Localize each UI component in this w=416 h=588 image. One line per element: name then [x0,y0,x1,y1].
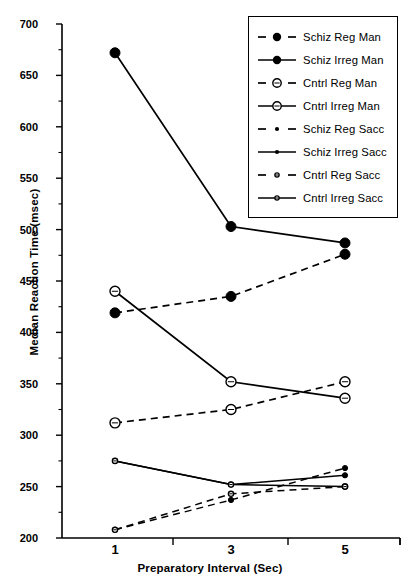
legend-key-icon [256,53,298,67]
series-line [115,382,345,423]
legend-item-schiz-reg-sacc[interactable]: Schiz Reg Sacc [256,117,390,140]
legend-key-icon [256,122,298,136]
legend-item-cntrl-irreg-man[interactable]: Cntrl Irreg Man [256,94,390,117]
legend-item-cntrl-reg-man[interactable]: Cntrl Reg Man [256,71,390,94]
legend-key-icon [256,99,298,113]
legend-item-cntrl-reg-sacc[interactable]: Cntrl Reg Sacc [256,163,390,186]
data-point [226,222,236,232]
legend-item-label: Cntrl Reg Sacc [303,169,380,181]
legend-key-icon [256,30,298,44]
legend-item-label: Schiz Reg Sacc [303,123,384,135]
data-point [340,238,350,248]
legend-item-schiz-irreg-man[interactable]: Schiz Irreg Man [256,48,390,71]
legend-item-label: Schiz Reg Man [303,31,381,43]
series-line [115,254,345,313]
legend-item-label: Schiz Irreg Man [303,54,384,66]
series-cntrl-irreg-man [110,286,350,403]
data-point [340,249,350,259]
legend-item-label: Cntrl Reg Man [303,77,377,89]
legend-key-icon [256,168,298,182]
legend-item-schiz-reg-man[interactable]: Schiz Reg Man [256,25,390,48]
series-cntrl-irreg-sacc [112,458,347,489]
legend-item-label: Schiz Irreg Sacc [303,146,387,158]
legend-item-label: Cntrl Irreg Man [303,100,380,112]
series-schiz-reg-sacc [112,465,347,532]
data-point [110,48,120,58]
series-cntrl-reg-sacc [112,484,347,532]
chart-figure: Median Reaction Time (msec) Preparatory … [0,0,416,588]
series-line [115,461,345,485]
legend-item-label: Cntrl Irreg Sacc [303,192,383,204]
data-point [342,473,347,478]
legend-key-icon [256,145,298,159]
legend-key-icon [256,76,298,90]
data-point [228,497,233,502]
legend-key-icon [256,191,298,205]
data-point [226,291,236,301]
data-point [342,465,347,470]
series-schiz-reg-man [110,249,350,318]
legend-item-cntrl-irreg-sacc[interactable]: Cntrl Irreg Sacc [256,186,390,209]
legend: Schiz Reg ManSchiz Irreg ManCntrl Reg Ma… [248,16,398,218]
data-point [110,308,120,318]
legend-item-schiz-irreg-sacc[interactable]: Schiz Irreg Sacc [256,140,390,163]
